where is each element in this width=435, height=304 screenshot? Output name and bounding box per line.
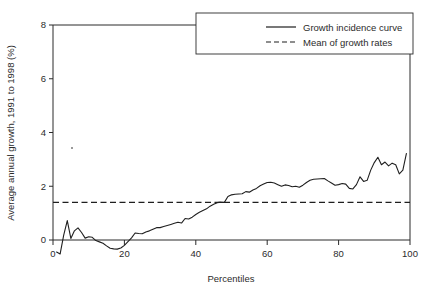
x-tick-label: 80: [333, 248, 344, 259]
x-tick-label: 60: [262, 248, 273, 259]
x-axis: 020406080100: [50, 240, 418, 259]
plot-background: [53, 25, 410, 240]
scan-speck: [71, 147, 73, 149]
x-tick-label: 40: [191, 248, 202, 259]
x-tick-label: 0: [50, 248, 55, 259]
x-tick-label: 100: [402, 248, 418, 259]
y-axis: 02468: [41, 19, 53, 245]
y-axis-title: Average annual growth, 1991 to 1998 (%): [5, 45, 16, 221]
y-tick-label: 2: [41, 181, 46, 192]
y-tick-label: 6: [41, 73, 46, 84]
legend-label-growth-incidence-curve: Growth incidence curve: [303, 22, 402, 33]
growth-incidence-curve-chart: 02468 020406080100 Percentiles Average a…: [0, 0, 435, 304]
x-axis-title: Percentiles: [208, 273, 255, 284]
legend-box: [196, 13, 413, 54]
chart-figure: 02468 020406080100 Percentiles Average a…: [0, 0, 435, 304]
plot-area: [53, 25, 410, 240]
x-tick-label: 20: [119, 248, 130, 259]
y-tick-label: 4: [41, 127, 46, 138]
y-tick-label: 0: [41, 234, 46, 245]
y-tick-label: 8: [41, 19, 46, 30]
legend: Growth incidence curve Mean of growth ra…: [196, 13, 413, 54]
legend-label-mean-of-growth-rates: Mean of growth rates: [303, 37, 392, 48]
